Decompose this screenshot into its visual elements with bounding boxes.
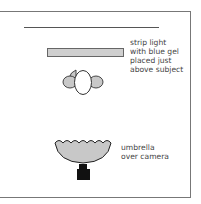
umbrella-label: umbrella over camera [121, 143, 169, 161]
strip-light-label: strip light with blue gel placed just ab… [130, 38, 183, 74]
lighting-diagram [0, 0, 201, 204]
camera-icon [77, 164, 90, 180]
subject-icon [63, 70, 103, 95]
umbrella-icon [55, 141, 111, 164]
strip-light [48, 49, 124, 57]
